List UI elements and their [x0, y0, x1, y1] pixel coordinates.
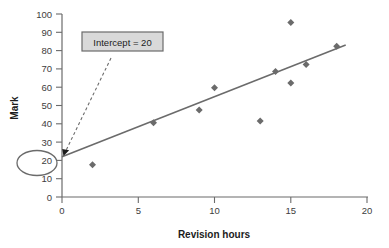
chart-canvas: 100 90 80 70 60 50 40 30 20 10 0 0 5 10 … [0, 0, 389, 248]
y-tick-label-90: 90 [41, 27, 52, 38]
y-tick-label-50: 50 [41, 100, 52, 111]
x-tick-label-0: 0 [59, 205, 64, 216]
x-axis-ticks [62, 197, 367, 203]
data-point [287, 19, 294, 26]
y-tick-label-30: 30 [41, 137, 52, 148]
intercept-arrow [62, 58, 111, 156]
data-point [211, 84, 218, 91]
y-axis-title: Mark [9, 96, 20, 120]
y-tick-label-60: 60 [41, 82, 52, 93]
y-tick-label-20: 20 [41, 155, 52, 166]
y-tick-label-100: 100 [36, 9, 52, 20]
regression-line [62, 45, 346, 157]
x-tick-label-10: 10 [209, 205, 220, 216]
y-tick-label-0: 0 [47, 192, 52, 203]
intercept-callout: Intercept = 20 [82, 32, 163, 51]
y-axis-ticks [56, 14, 62, 197]
x-axis-tick-labels: 0 5 10 15 20 [59, 205, 372, 216]
scatter-chart: 100 90 80 70 60 50 40 30 20 10 0 0 5 10 … [0, 0, 389, 248]
y-tick-label-70: 70 [41, 63, 52, 74]
data-point [287, 80, 294, 87]
data-point [257, 117, 264, 124]
x-axis-title: Revision hours [178, 229, 251, 240]
intercept-arrow-line [66, 58, 112, 152]
x-tick-label-20: 20 [362, 205, 373, 216]
y-tick-label-40: 40 [41, 118, 52, 129]
x-tick-label-15: 15 [286, 205, 297, 216]
x-tick-label-5: 5 [136, 205, 141, 216]
y-tick-label-80: 80 [41, 45, 52, 56]
data-point [89, 161, 96, 168]
intercept-callout-label: Intercept = 20 [93, 37, 151, 48]
data-point [196, 106, 203, 113]
